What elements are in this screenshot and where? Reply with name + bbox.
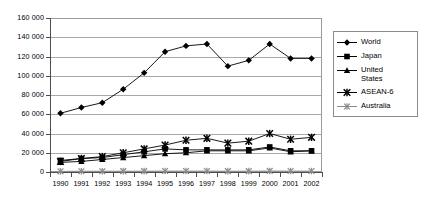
- x-axis-tick: [217, 173, 218, 177]
- y-axis-tick: [46, 134, 51, 135]
- y-axis-tick: [46, 114, 51, 115]
- x-axis-tick: [50, 173, 51, 177]
- legend-marker-cross-icon: [336, 87, 358, 98]
- gridline: [51, 153, 321, 154]
- x-axis-tick: [134, 173, 135, 177]
- x-axis-tick: [280, 173, 281, 177]
- y-axis-tick-label: 0: [0, 168, 44, 175]
- x-axis-tick: [238, 173, 239, 177]
- chart-legend: WorldJapanUnited StatesASEAN-6Australia: [333, 31, 418, 117]
- legend-label: World: [358, 37, 381, 47]
- gridline: [51, 76, 321, 77]
- y-axis-tick-label: 20 000: [0, 149, 44, 156]
- y-axis-tick: [46, 95, 51, 96]
- legend-item-asean-6[interactable]: ASEAN-6: [334, 85, 417, 99]
- legend-label: ASEAN-6: [358, 87, 394, 97]
- x-axis-tick: [196, 173, 197, 177]
- legend-marker-diamond-icon: [336, 37, 358, 48]
- y-axis-labels: 020 00040 00060 00080 000100 000120 0001…: [0, 0, 44, 204]
- line-chart: 020 00040 00060 00080 000100 000120 0001…: [0, 0, 426, 204]
- y-axis-tick-label: 160 000: [0, 14, 44, 21]
- x-axis-tick: [301, 173, 302, 177]
- x-axis-tick: [92, 173, 93, 177]
- x-axis-tick-label: 2002: [297, 180, 327, 188]
- gridline: [51, 114, 321, 115]
- y-axis-tick: [46, 18, 51, 19]
- y-axis-tick-label: 120 000: [0, 53, 44, 60]
- y-axis-tick-label: 40 000: [0, 130, 44, 137]
- y-axis-tick-label: 60 000: [0, 110, 44, 117]
- legend-label: Australia: [358, 101, 391, 111]
- data-point-square: [344, 53, 350, 59]
- legend-item-japan[interactable]: Japan: [334, 49, 417, 63]
- x-axis-tick: [113, 173, 114, 177]
- x-axis-tick: [71, 173, 72, 177]
- gridline: [51, 57, 321, 58]
- legend-item-united-states[interactable]: United States: [334, 63, 417, 85]
- y-axis-tick: [46, 76, 51, 77]
- y-axis-tick: [46, 153, 51, 154]
- y-axis-tick-label: 80 000: [0, 91, 44, 98]
- plot-area: [50, 18, 322, 172]
- x-axis-tick: [322, 173, 323, 177]
- gridline: [51, 134, 321, 135]
- legend-marker-triangle-icon: [336, 65, 358, 76]
- legend-item-world[interactable]: World: [334, 35, 417, 49]
- legend-marker-asterisk-icon: [336, 101, 358, 112]
- data-point-diamond: [344, 39, 350, 45]
- y-axis-tick: [46, 57, 51, 58]
- y-axis-tick-label: 100 000: [0, 72, 44, 79]
- legend-marker-square-icon: [336, 51, 358, 62]
- gridline: [51, 95, 321, 96]
- x-axis-tick: [155, 173, 156, 177]
- legend-label: United States: [358, 65, 383, 84]
- gridline: [51, 37, 321, 38]
- y-axis-tick-label: 140 000: [0, 33, 44, 40]
- legend-label: Japan: [358, 51, 382, 61]
- y-axis-tick: [46, 37, 51, 38]
- x-axis-tick: [259, 173, 260, 177]
- x-axis-tick: [176, 173, 177, 177]
- legend-item-australia[interactable]: Australia: [334, 99, 417, 113]
